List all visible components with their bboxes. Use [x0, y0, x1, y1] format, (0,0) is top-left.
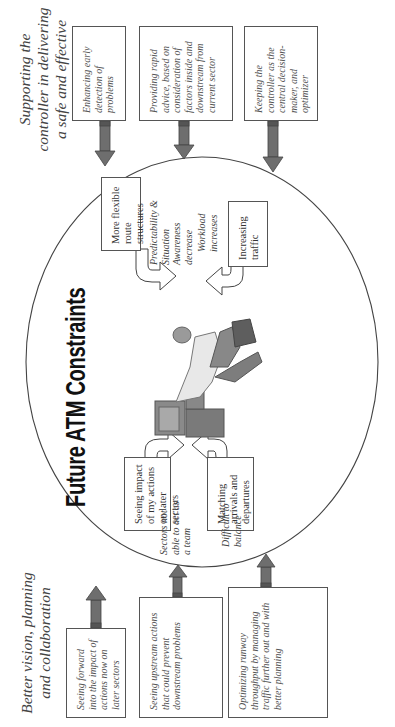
- diagram-canvas: Better vision, planning and collaboratio…: [0, 0, 395, 727]
- controller-figure-icon: [155, 319, 262, 437]
- right-box-1: Enhancing early detection of problems: [72, 26, 126, 121]
- left-box-2: Seeing upstream actions that could preve…: [139, 597, 223, 718]
- constraint-box-traffic: Increasing traffic: [228, 201, 268, 267]
- note-difficult-balance: Difficult to balance: [220, 489, 243, 547]
- left-box-3: Optimizing runway throughput by managing…: [228, 587, 328, 718]
- right-box-2: Providing rapid advice, based on conside…: [139, 26, 233, 121]
- arrow-left-3-icon: [257, 554, 275, 587]
- note-workload: Workload increases: [196, 192, 219, 252]
- left-box-1: Seeing forward into the impact of action…: [66, 628, 126, 718]
- diagram-title: Future ATM Constraints: [60, 288, 92, 507]
- arrow-left-1-icon: [86, 586, 106, 628]
- constraint-box-routes: More flexible route structures: [101, 177, 141, 251]
- arrow-right-3-icon: [263, 121, 283, 172]
- note-sectors-team: Sectors not able to act as a team: [158, 495, 193, 555]
- arrow-left-2-icon: [169, 565, 187, 597]
- right-box-3: Keeping the controller as the central de…: [244, 26, 318, 121]
- note-predictability: Predictability & Situation Awareness dec…: [148, 185, 194, 265]
- arrow-right-2-icon: [174, 121, 194, 159]
- arrow-right-1-icon: [95, 121, 115, 166]
- left-group-heading: Better vision, planning and collaboratio…: [18, 568, 54, 718]
